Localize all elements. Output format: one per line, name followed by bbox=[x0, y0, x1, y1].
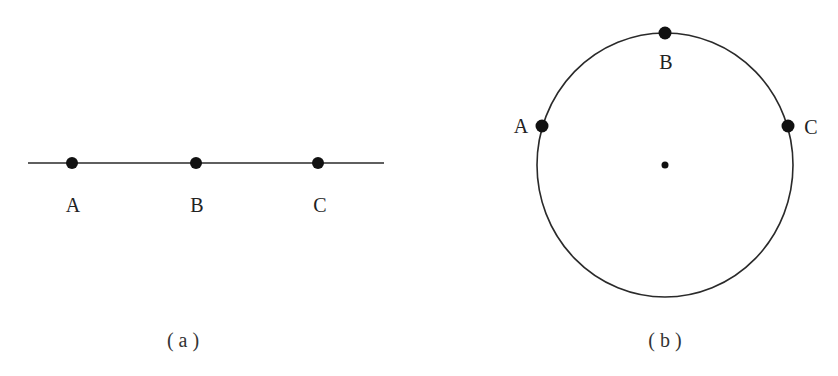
point-b-marker bbox=[659, 27, 672, 40]
caption-a: ( a ) bbox=[167, 329, 199, 352]
center-point bbox=[662, 162, 669, 169]
point-b-label: B bbox=[659, 51, 672, 73]
caption-b: ( b ) bbox=[648, 329, 681, 352]
point-a-marker bbox=[536, 120, 549, 133]
point-c-label: C bbox=[313, 194, 326, 216]
point-b-label: B bbox=[190, 194, 203, 216]
point-b-marker bbox=[190, 157, 202, 169]
diagram-canvas: A B C ( a ) A B C ( b ) bbox=[0, 0, 838, 376]
figure-a: A B C ( a ) bbox=[28, 157, 384, 352]
point-c-label: C bbox=[804, 116, 817, 138]
point-a-label: A bbox=[514, 115, 529, 137]
point-a-label: A bbox=[66, 194, 81, 216]
point-c-marker bbox=[782, 120, 795, 133]
point-a-marker bbox=[66, 157, 78, 169]
point-c-marker bbox=[312, 157, 324, 169]
figure-b: A B C ( b ) bbox=[514, 27, 818, 353]
